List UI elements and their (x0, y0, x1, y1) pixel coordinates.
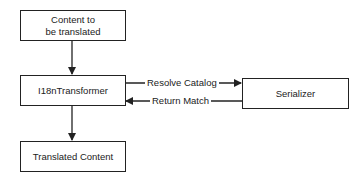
node-label: Serializer (276, 88, 316, 100)
node-label: I18nTransformer (38, 85, 108, 97)
edge-label-resolve-catalog: Resolve Catalog (145, 77, 219, 88)
node-i18n-transformer: I18nTransformer (20, 75, 126, 106)
edge-label-return-match: Return Match (150, 95, 211, 106)
node-content-to-translate: Content to be translated (20, 10, 126, 41)
node-label-line2: be translated (46, 26, 101, 38)
node-serializer: Serializer (242, 78, 349, 109)
node-translated-content: Translated Content (20, 141, 126, 172)
node-label-line1: Content to (51, 14, 95, 26)
node-label: Translated Content (33, 151, 113, 163)
